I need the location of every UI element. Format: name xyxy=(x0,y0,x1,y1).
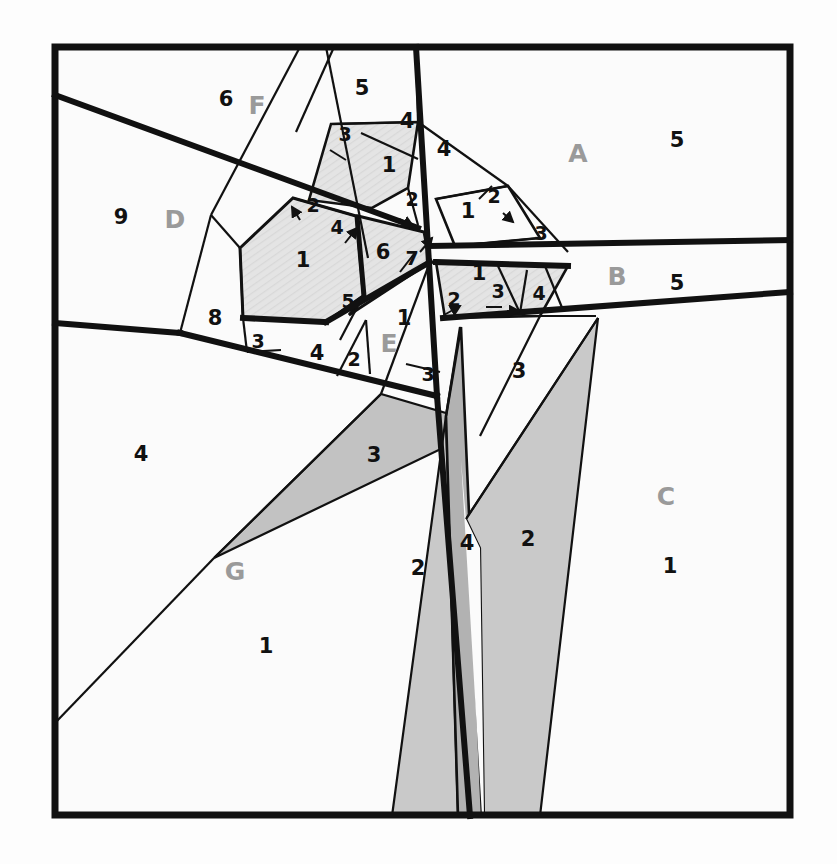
region-letter-b: B xyxy=(607,262,626,291)
region-number-9: 2 xyxy=(405,188,418,210)
region-letter-g: G xyxy=(225,557,246,586)
region-number-24: 3 xyxy=(251,330,264,352)
region-number-36: 1 xyxy=(663,554,678,578)
region-letter-c: C xyxy=(657,482,675,511)
region-number-18: 1 xyxy=(472,261,487,285)
region-number-8: 1 xyxy=(382,153,397,177)
region-number-33: 2 xyxy=(411,556,426,580)
region-number-5: 3 xyxy=(338,123,351,145)
region-number-1: 6 xyxy=(219,87,234,111)
region-number-15: 1 xyxy=(296,248,311,272)
region-number-23: 8 xyxy=(208,306,223,330)
region-number-7: 4 xyxy=(437,137,452,161)
region-number-34: 4 xyxy=(460,531,475,555)
region-number-19: 5 xyxy=(341,290,354,312)
region-number-30: 3 xyxy=(367,443,382,467)
region-number-3: 5 xyxy=(670,271,685,295)
region-letter-d: D xyxy=(165,205,186,234)
region-letter-a: A xyxy=(568,139,588,168)
region-number-26: 2 xyxy=(347,348,360,370)
region-number-10: 2 xyxy=(487,185,500,207)
partition-diagram-svg: ABCDEFG 56559344122132416715234834213334… xyxy=(0,0,837,864)
region-letter-e: E xyxy=(380,329,397,358)
region-number-17: 7 xyxy=(405,247,418,269)
region-number-13: 2 xyxy=(306,194,319,216)
region-number-22: 4 xyxy=(532,282,545,304)
region-number-14: 4 xyxy=(330,216,343,238)
region-number-11: 1 xyxy=(461,199,476,223)
region-letter-f: F xyxy=(248,91,265,120)
diagram-canvas: ABCDEFG 56559344122132416715234834213334… xyxy=(0,0,837,864)
region-number-20: 2 xyxy=(447,288,460,310)
region-number-6: 4 xyxy=(400,109,415,133)
region-number-28: 3 xyxy=(421,363,434,385)
region-number-0: 5 xyxy=(355,76,370,100)
region-number-2: 5 xyxy=(670,128,685,152)
region-number-21: 3 xyxy=(491,280,504,302)
region-number-4: 9 xyxy=(114,205,129,229)
region-number-32: 1 xyxy=(259,634,274,658)
region-number-29: 3 xyxy=(512,359,527,383)
region-number-25: 4 xyxy=(310,341,325,365)
region-number-27: 1 xyxy=(397,306,412,330)
region-number-35: 2 xyxy=(521,527,536,551)
region-number-31: 4 xyxy=(134,442,149,466)
region-number-12: 3 xyxy=(534,222,547,244)
region-number-16: 6 xyxy=(376,240,391,264)
